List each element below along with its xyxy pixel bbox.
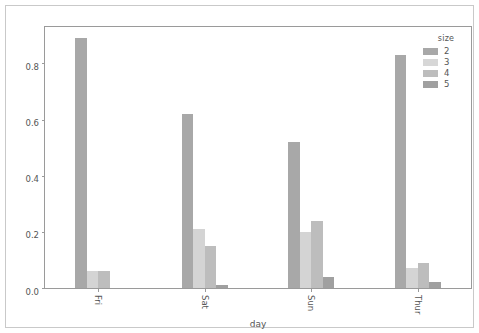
legend-label: 2 (444, 47, 449, 56)
bar (395, 55, 407, 288)
y-tick-mark (42, 176, 45, 177)
legend-swatch (423, 59, 438, 66)
legend-item: 3 (423, 57, 469, 68)
x-tick-label: Sun (307, 295, 316, 311)
y-tick-mark (42, 288, 45, 289)
bar (288, 142, 300, 288)
bar (418, 263, 430, 288)
y-tick-label: 0.2 (25, 232, 39, 241)
legend-item: 4 (423, 68, 469, 79)
legend-label: 5 (444, 80, 449, 89)
bar (98, 271, 110, 288)
legend-swatch (423, 70, 438, 77)
chart-legend: size 2345 (423, 34, 469, 90)
bar (311, 221, 323, 288)
y-tick-mark (42, 232, 45, 233)
bar (216, 285, 228, 288)
legend-label: 4 (444, 69, 449, 78)
plot-area: 0.00.20.40.60.8FriSatSunThur (45, 27, 471, 288)
bar (193, 229, 205, 288)
y-tick-label: 0.6 (25, 119, 39, 128)
y-tick-label: 0.4 (25, 175, 39, 184)
bar (323, 277, 335, 288)
legend-swatch (423, 81, 438, 88)
legend-item: 2 (423, 46, 469, 57)
bar (87, 271, 99, 288)
y-tick-label: 0.0 (25, 288, 39, 297)
y-tick-mark (42, 63, 45, 64)
x-tick-label: Fri (94, 295, 103, 305)
chart-figure: 0.00.20.40.60.8FriSatSunThur size 2345 d… (0, 0, 479, 333)
figure-border: 0.00.20.40.60.8FriSatSunThur size 2345 d… (5, 5, 474, 328)
y-tick-mark (42, 120, 45, 121)
plot-axes: 0.00.20.40.60.8FriSatSunThur (44, 26, 472, 289)
y-tick-label: 0.8 (25, 63, 39, 72)
legend-swatch (423, 48, 438, 55)
x-tick-label: Thur (413, 295, 422, 314)
x-tick-mark (418, 288, 419, 292)
x-tick-mark (205, 288, 206, 292)
legend-title: size (423, 34, 469, 43)
x-tick-mark (98, 288, 99, 292)
bar (429, 282, 441, 288)
bar (300, 232, 312, 288)
legend-label: 3 (444, 58, 449, 67)
bar (182, 114, 194, 288)
legend-item: 5 (423, 79, 469, 90)
x-tick-label: Sat (200, 295, 209, 309)
x-tick-mark (311, 288, 312, 292)
bar (205, 246, 217, 288)
legend-entries: 2345 (423, 46, 469, 90)
bar (75, 38, 87, 288)
bar (406, 268, 418, 288)
x-axis-label: day (44, 319, 472, 329)
